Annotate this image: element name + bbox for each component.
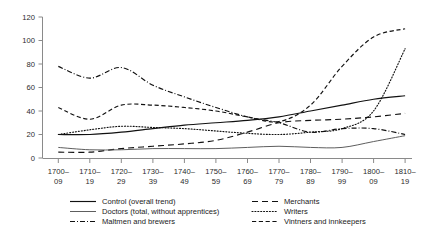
legend-label: Doctors (total, without apprentices): [102, 207, 220, 216]
series-layer: [58, 29, 405, 153]
line-chart: 0 20 40 60 80 100 120: [0, 0, 426, 239]
x-tick-label-line1: 1810–: [395, 167, 417, 176]
legend-item-maltmen-and-brewers[interactable]: Maltmen and brewers: [70, 217, 175, 226]
x-tick-label-line2: 59: [212, 177, 220, 186]
y-tick-label: 0: [31, 154, 35, 163]
series-line-vintners-and-innkeepers: [58, 29, 405, 122]
x-axis-tick-labels: 1700– 09 1710– 19 1720– 29 1730– 39 1740…: [48, 167, 417, 186]
y-axis-tick-labels: 0 20 40 60 80 100 120: [22, 13, 35, 163]
x-tick-label-line1: 1770–: [268, 167, 290, 176]
x-tick-label-line1: 1780–: [300, 167, 322, 176]
legend-label: Writers: [284, 207, 308, 216]
legend-item-writers[interactable]: Writers: [252, 207, 308, 216]
y-axis: 0 20 40 60 80 100 120: [22, 13, 42, 163]
x-tick-label-line2: 19: [86, 177, 94, 186]
x-tick-label-line2: 69: [243, 177, 251, 186]
x-tick-label-line2: 39: [149, 177, 157, 186]
y-tick-label: 40: [27, 107, 35, 116]
x-tick-label-line2: 29: [117, 177, 125, 186]
x-axis-ticks: [58, 159, 405, 164]
legend: Control (overall trend) Doctors (total, …: [70, 197, 366, 226]
x-tick-label-line2: 79: [275, 177, 283, 186]
x-tick-label-line1: 1750–: [205, 167, 227, 176]
y-tick-label: 80: [27, 60, 35, 69]
x-tick-label-line2: 99: [338, 177, 346, 186]
legend-item-vintners-and-innkeepers[interactable]: Vintners and innkeepers: [252, 217, 366, 226]
y-tick-label: 100: [22, 36, 35, 45]
x-tick-label-line1: 1760–: [237, 167, 259, 176]
series-line-maltmen-and-brewers: [58, 66, 405, 134]
x-tick-label-line1: 1720–: [111, 167, 133, 176]
x-tick-label-line1: 1700–: [48, 167, 70, 176]
x-tick-label-line2: 09: [369, 177, 377, 186]
x-tick-label-line1: 1790–: [332, 167, 354, 176]
series-line-doctors: [58, 136, 405, 150]
legend-item-control[interactable]: Control (overall trend): [70, 197, 176, 206]
y-axis-ticks: [39, 17, 43, 158]
legend-label: Merchants: [284, 197, 320, 206]
x-tick-label-line2: 09: [54, 177, 62, 186]
x-tick-label-line1: 1800–: [363, 167, 385, 176]
legend-label: Control (overall trend): [102, 197, 176, 206]
legend-label: Maltmen and brewers: [102, 217, 175, 226]
chart-figure: 0 20 40 60 80 100 120: [0, 0, 426, 239]
legend-item-doctors[interactable]: Doctors (total, without apprentices): [70, 207, 220, 216]
x-tick-label-line1: 1730–: [142, 167, 164, 176]
series-line-control: [58, 96, 405, 135]
y-tick-label: 20: [27, 130, 35, 139]
y-tick-label: 120: [22, 13, 35, 22]
x-tick-label-line1: 1740–: [174, 167, 196, 176]
legend-item-merchants[interactable]: Merchants: [252, 197, 320, 206]
x-tick-label-line2: 19: [401, 177, 409, 186]
y-tick-label: 60: [27, 83, 35, 92]
legend-label: Vintners and innkeepers: [284, 217, 366, 226]
x-tick-label-line1: 1710–: [79, 167, 101, 176]
x-axis: 1700– 09 1710– 19 1720– 29 1730– 39 1740…: [43, 159, 417, 187]
x-tick-label-line2: 49: [180, 177, 188, 186]
x-tick-label-line2: 89: [306, 177, 314, 186]
